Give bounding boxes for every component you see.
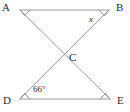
vertex-label-e: E	[117, 95, 124, 106]
vertex-label-c: C	[69, 52, 76, 63]
vertex-label-d: D	[3, 95, 11, 106]
angle-label-d: 66°	[33, 85, 46, 94]
vertex-label-b: B	[116, 2, 123, 13]
angle-label-x: x	[89, 15, 93, 24]
vertex-label-a: A	[2, 2, 10, 13]
geometry-figure: A B C D E x 66°	[0, 0, 130, 112]
figure-canvas	[0, 0, 130, 112]
